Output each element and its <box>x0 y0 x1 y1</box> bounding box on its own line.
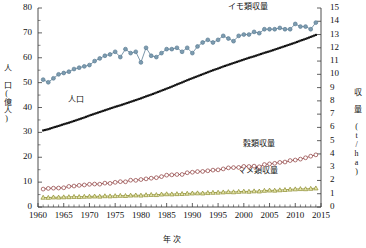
data-point <box>129 51 133 55</box>
data-point <box>138 98 140 100</box>
data-point <box>278 161 282 165</box>
data-point <box>77 66 81 70</box>
data-point <box>82 183 86 187</box>
data-point <box>190 170 194 174</box>
data-point <box>237 34 241 38</box>
data-point <box>107 108 109 110</box>
data-point <box>112 106 114 108</box>
data-point <box>179 82 181 84</box>
data-point <box>236 61 238 63</box>
data-point <box>113 50 117 54</box>
data-point <box>252 30 256 34</box>
data-point <box>129 178 133 182</box>
data-point <box>165 47 169 51</box>
data-point <box>257 54 259 56</box>
data-point <box>196 45 200 49</box>
data-point <box>210 70 212 72</box>
data-point <box>215 68 217 70</box>
data-point <box>124 180 128 184</box>
data-point <box>102 110 104 112</box>
data-point <box>113 180 117 184</box>
data-point <box>251 56 253 58</box>
data-point <box>272 49 274 51</box>
data-point <box>241 59 243 61</box>
data-point <box>92 113 94 115</box>
data-point <box>185 171 189 175</box>
data-point <box>263 163 267 167</box>
data-point <box>220 66 222 68</box>
data-point <box>149 176 153 180</box>
data-point <box>139 60 143 64</box>
data-point <box>288 27 292 31</box>
data-point <box>56 125 58 127</box>
data-point <box>154 55 158 59</box>
data-point <box>304 25 308 29</box>
data-point <box>134 178 138 182</box>
data-point <box>309 154 313 158</box>
data-point <box>118 105 120 107</box>
data-point <box>206 38 210 42</box>
data-point <box>257 31 261 35</box>
data-point <box>242 165 246 169</box>
data-point <box>303 38 305 40</box>
data-point <box>201 41 205 45</box>
data-point <box>108 53 112 57</box>
data-point <box>308 37 310 39</box>
data-point <box>72 184 76 188</box>
data-point <box>170 173 174 177</box>
data-point <box>67 185 71 189</box>
data-point <box>52 76 56 80</box>
data-point <box>313 35 315 37</box>
data-point <box>309 27 313 31</box>
data-point <box>169 86 171 88</box>
data-point <box>128 101 130 103</box>
data-point <box>283 160 287 164</box>
data-point <box>98 57 102 61</box>
data-point <box>170 47 174 51</box>
data-point <box>46 187 50 191</box>
data-point <box>252 164 256 168</box>
data-point <box>287 44 289 46</box>
data-point <box>237 166 241 170</box>
data-point <box>139 178 143 182</box>
data-point <box>93 182 97 186</box>
data-point <box>282 46 284 48</box>
data-point <box>97 112 99 114</box>
data-point <box>231 63 233 65</box>
data-point <box>123 103 125 105</box>
data-point <box>103 54 107 58</box>
data-point <box>61 124 63 126</box>
data-point <box>221 167 225 171</box>
data-point <box>226 166 230 170</box>
data-point <box>77 183 81 187</box>
data-point <box>278 26 282 30</box>
data-point <box>293 42 295 44</box>
data-point <box>133 100 135 102</box>
plot-area <box>0 0 366 248</box>
data-point <box>41 78 45 82</box>
data-point <box>247 33 251 37</box>
data-point <box>66 122 68 124</box>
data-point <box>118 180 122 184</box>
data-point <box>149 54 153 58</box>
data-point <box>293 158 297 162</box>
data-point <box>93 59 97 63</box>
data-point <box>72 67 76 71</box>
data-point <box>57 186 61 190</box>
data-point <box>46 80 50 84</box>
data-point <box>118 55 122 59</box>
data-point <box>200 74 202 76</box>
data-point <box>51 127 53 129</box>
data-point <box>41 187 45 191</box>
data-point <box>257 165 261 169</box>
data-point <box>283 27 287 31</box>
data-point <box>82 117 84 119</box>
data-point <box>180 50 184 54</box>
data-point <box>211 41 215 45</box>
data-point <box>52 186 56 190</box>
data-point <box>277 47 279 49</box>
data-point <box>154 176 158 180</box>
data-point <box>190 51 194 55</box>
data-point <box>88 182 92 186</box>
data-point <box>180 173 184 177</box>
